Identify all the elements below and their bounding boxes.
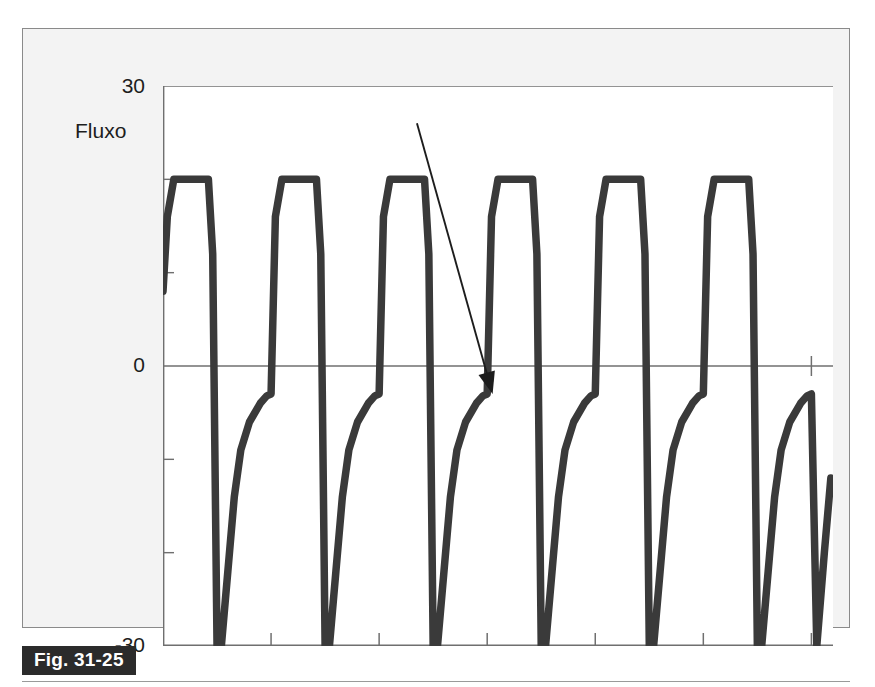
figure-caption-badge: Fig. 31-25 <box>22 646 136 675</box>
axes-group <box>163 86 833 646</box>
plot-area <box>163 86 833 646</box>
flow-trace <box>163 179 831 646</box>
figure-root: 30 0 -30 Fluxo Aprisionamento 10 <box>0 0 875 687</box>
figure-caption: Fig. 31-25 <box>22 646 136 674</box>
y-axis-max-label: 30 <box>83 74 145 98</box>
caption-divider <box>22 681 850 682</box>
flow-waveform-chart <box>163 86 833 646</box>
y-axis-title: Fluxo <box>75 119 126 143</box>
y-axis-zero-label: 0 <box>83 353 145 377</box>
figure-panel: 30 0 -30 Fluxo Aprisionamento 10 <box>22 28 850 628</box>
